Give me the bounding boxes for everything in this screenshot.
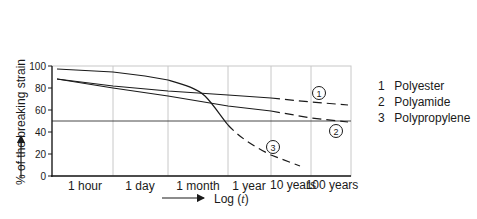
y-tick-labels: 0 20 40 60 80 100 — [29, 61, 46, 182]
x-tick-label: 1 day — [125, 179, 154, 193]
svg-text:2: 2 — [333, 127, 338, 137]
curve-marker-3: 3 — [267, 141, 280, 154]
curve-marker-1: 1 — [313, 87, 326, 100]
curve-marker-2: 2 — [330, 125, 343, 138]
y-tick-label: 0 — [40, 171, 46, 182]
x-tick-label: 1 hour — [68, 179, 102, 193]
svg-text:1: 1 — [316, 89, 321, 99]
y-tick-label: 20 — [35, 149, 47, 160]
y-tick-label: 40 — [35, 127, 47, 138]
legend-label: Polyamide — [394, 95, 450, 109]
x-tick-labels: 1 hour 1 day 1 month 1 year 10 years 100… — [68, 178, 358, 193]
curve-polyamide — [57, 79, 348, 122]
legend-number: 3 — [378, 110, 391, 126]
legend-item-polypropylene: 3 Polypropylene — [378, 110, 470, 126]
legend-label: Polyester — [394, 79, 444, 93]
x-tick-label: 1 month — [176, 179, 219, 193]
x-tick-label: 1 year — [232, 179, 265, 193]
y-tick-label: 80 — [35, 83, 47, 94]
svg-text:3: 3 — [270, 143, 275, 153]
y-tick-label: 100 — [29, 61, 46, 72]
y-tick-label: 60 — [35, 105, 47, 116]
x-tick-label: 100 years — [306, 178, 359, 192]
legend-item-polyamide: 2 Polyamide — [378, 94, 470, 110]
x-axis-title: Log (t) — [214, 192, 249, 206]
legend: 1 Polyester 2 Polyamide 3 Polypropylene — [378, 78, 470, 126]
legend-number: 2 — [378, 94, 391, 110]
legend-number: 1 — [378, 78, 391, 94]
legend-item-polyester: 1 Polyester — [378, 78, 470, 94]
legend-label: Polypropylene — [394, 111, 470, 125]
curve-polyester — [57, 79, 348, 105]
